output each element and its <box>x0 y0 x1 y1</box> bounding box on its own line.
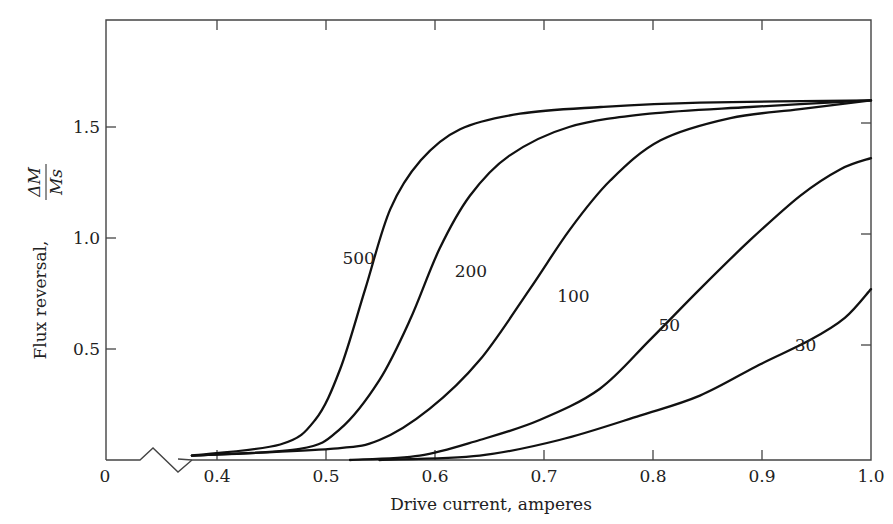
x-tick-label: 0.7 <box>530 466 557 486</box>
axis-ticks: 0.40.50.60.70.80.91.00.51.01.5 <box>73 20 885 486</box>
y-axis-numerator: ΔM <box>24 167 44 198</box>
plot-frame <box>106 20 871 472</box>
curve-label-50: 50 <box>659 315 681 335</box>
x-tick-label: 0.9 <box>748 466 775 486</box>
curve-500 <box>192 100 871 455</box>
flux-reversal-chart: 0.40.50.60.70.80.91.00.51.01.5 500200100… <box>0 0 893 524</box>
curves <box>192 100 871 460</box>
y-axis-title: Flux reversal, ΔM Ms <box>24 164 66 359</box>
x-axis-title: Drive current, amperes <box>390 494 592 514</box>
x-tick-label: 0.8 <box>639 466 666 486</box>
y-axis-denominator: Ms <box>46 169 66 196</box>
curve-50 <box>350 158 871 460</box>
curve-labels: 5002001005030 <box>342 248 816 355</box>
y-axis-title-text: Flux reversal, <box>30 241 50 360</box>
axis-break-zigzag <box>106 448 192 472</box>
y-tick-label: 0.5 <box>73 339 100 359</box>
y-tick-label: 1.5 <box>73 117 100 137</box>
curve-100 <box>192 100 871 455</box>
curve-200 <box>192 100 871 455</box>
curve-label-30: 30 <box>795 335 817 355</box>
x-origin-label: 0 <box>100 466 111 486</box>
x-tick-label: 0.5 <box>312 466 339 486</box>
frame-outline <box>106 20 871 460</box>
y-tick-label: 1.0 <box>73 228 100 248</box>
curve-label-200: 200 <box>455 261 487 281</box>
x-tick-label: 1.0 <box>857 466 884 486</box>
curve-label-500: 500 <box>342 248 374 268</box>
curve-label-100: 100 <box>557 286 589 306</box>
x-tick-label: 0.4 <box>203 466 230 486</box>
x-tick-label: 0.6 <box>421 466 448 486</box>
curve-30 <box>379 289 871 460</box>
